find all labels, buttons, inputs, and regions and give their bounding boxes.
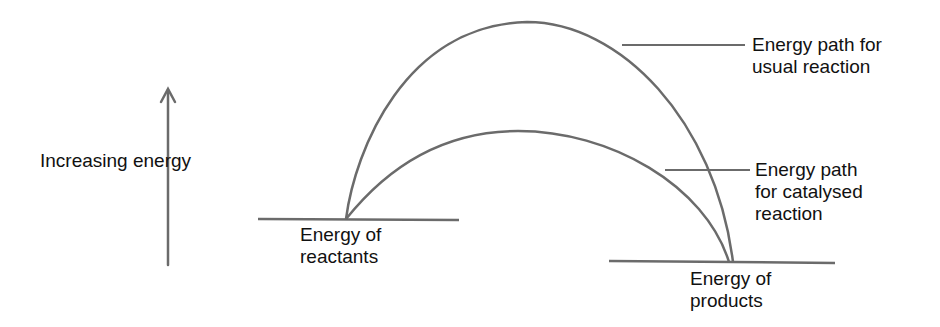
energy-profile-diagram: Increasing energy Energy of reactants En… bbox=[0, 0, 940, 327]
products-energy-level bbox=[609, 261, 835, 263]
label-energy-of-products: Energy of products bbox=[690, 268, 771, 312]
axis-label-increasing-energy: Increasing energy bbox=[40, 150, 191, 172]
reactants-energy-level bbox=[258, 219, 459, 220]
label-energy-of-reactants: Energy of reactants bbox=[300, 224, 381, 268]
increasing-energy-arrow-icon bbox=[161, 89, 175, 265]
label-catalysed-reaction-path: Energy path for catalysed reaction bbox=[755, 159, 863, 225]
catalysed-reaction-path bbox=[346, 131, 729, 262]
usual-reaction-path bbox=[346, 22, 733, 262]
label-usual-reaction-path: Energy path for usual reaction bbox=[752, 34, 882, 78]
